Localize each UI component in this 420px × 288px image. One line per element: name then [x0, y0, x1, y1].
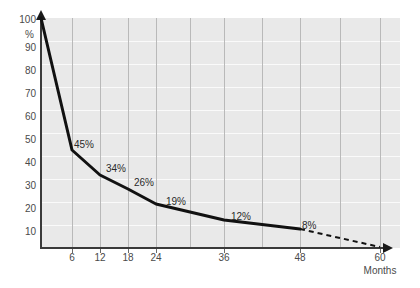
- data-series: [0, 0, 420, 288]
- point-label-48mo: 8%: [302, 220, 316, 231]
- point-label-36mo: 12%: [231, 211, 251, 222]
- retention-curve-dashed: [300, 229, 380, 247]
- point-label-18mo: 26%: [134, 177, 154, 188]
- point-label-6mo: 45%: [74, 139, 94, 150]
- point-label-12mo: 34%: [106, 163, 126, 174]
- point-label-24mo: 19%: [166, 196, 186, 207]
- chart-figure: 100 % 90 80 70 60 50 40 30 20 10 6 12 18…: [0, 0, 420, 288]
